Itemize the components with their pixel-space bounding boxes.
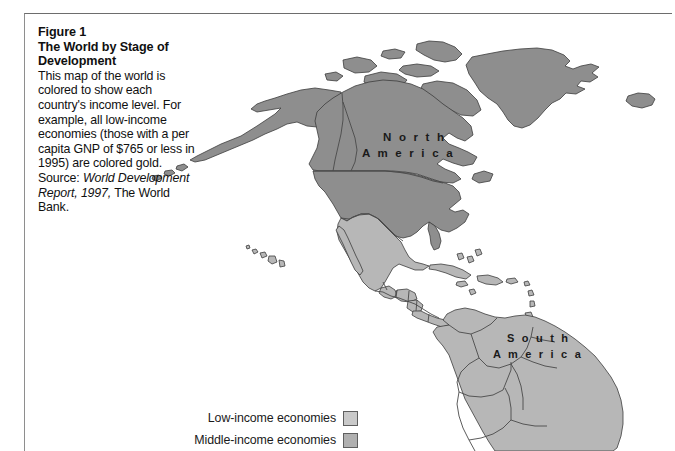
figure-description-part1: This map of the world is colored to show… — [38, 69, 195, 185]
figure-title-line1: The World by Stage of — [38, 40, 203, 55]
map-label-south-america-line1: S o u t h — [507, 332, 570, 344]
figure-title-line2: Development — [38, 54, 203, 69]
figure-page: N o r t h A m e r i c a S o u t h A m e … — [0, 0, 675, 451]
map-label-north-america-line2: A m e r i c a — [362, 147, 455, 159]
figure-description: This map of the world is colored to show… — [38, 69, 203, 215]
figure-number: Figure 1 — [38, 25, 203, 40]
landmass-lesser-antilles-c — [530, 301, 535, 307]
legend-item-middle-income: Middle-income economies — [196, 429, 358, 451]
legend-swatch-middle-income — [343, 433, 358, 448]
map-label-north-america-line1: N o r t h — [383, 131, 446, 143]
figure-caption: Figure 1 The World by Stage of Developme… — [38, 25, 203, 215]
legend-label-middle-income: Middle-income economies — [194, 433, 336, 447]
legend-item-low-income: Low-income economies — [196, 407, 358, 429]
map-label-south-america-line2: A m e r i c a — [493, 348, 583, 360]
legend-label-low-income: Low-income economies — [208, 411, 336, 425]
legend-swatch-low-income — [343, 411, 358, 426]
map-legend: Low-income economies Middle-income econo… — [196, 407, 358, 451]
